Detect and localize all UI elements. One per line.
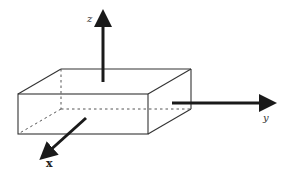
z-axis-label: z (86, 13, 93, 24)
coordinate-box-diagram: z y x (0, 0, 290, 176)
box-front-face (18, 94, 148, 134)
box-hidden-edge-bottom-left (18, 109, 61, 134)
y-axis-label: y (262, 112, 269, 123)
box-edge-top-right (148, 69, 191, 94)
box-edge-top-left (18, 69, 61, 94)
box-edge-bottom-right (148, 109, 191, 134)
x-axis-label: x (46, 157, 53, 170)
x-axis-arrow (46, 118, 86, 154)
